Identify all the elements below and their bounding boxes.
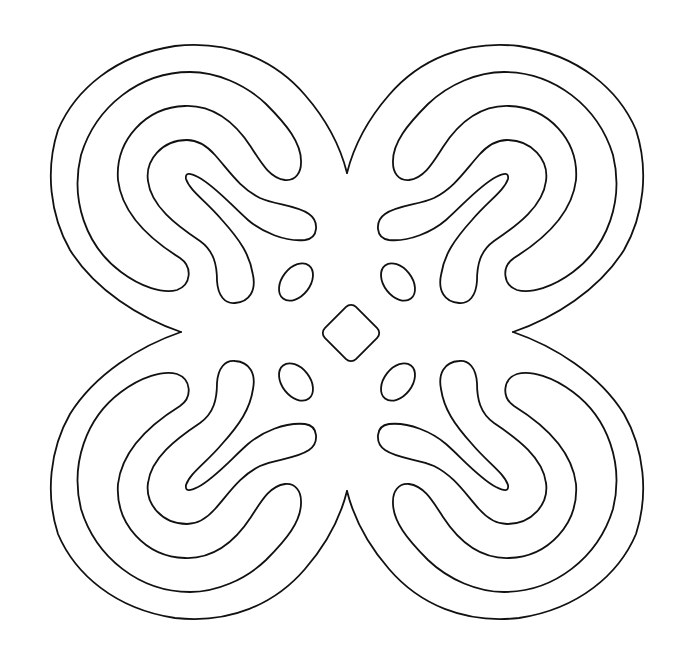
adinkra-symbol <box>0 0 691 659</box>
lobe-bottom-right <box>347 332 643 619</box>
lobe-top-right <box>347 45 643 332</box>
center-diamond <box>320 302 382 364</box>
lobe-bottom-left <box>51 332 347 619</box>
lobe-top-left <box>51 45 347 332</box>
line-art-canvas: Adinkra-style line-art symbol <box>0 0 691 659</box>
